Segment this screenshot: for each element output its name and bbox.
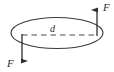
- force-label-bottom: F: [6, 57, 14, 69]
- diameter-label: d: [50, 23, 56, 34]
- disk-ellipse: [11, 18, 103, 49]
- force-label-top: F: [102, 1, 110, 13]
- force-couple-diagram: d F F: [0, 0, 114, 72]
- diagram-canvas: d F F: [0, 0, 114, 72]
